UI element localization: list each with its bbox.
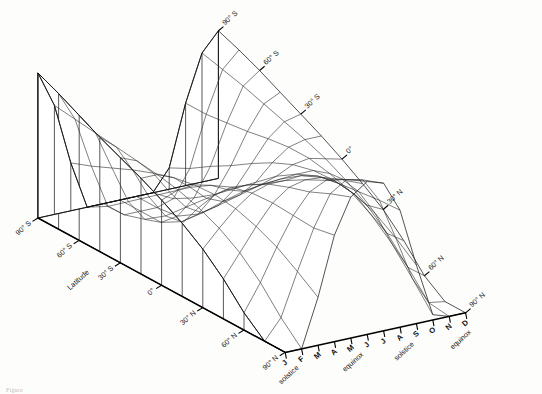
tick-label-month: N bbox=[444, 322, 454, 332]
tick-latitude bbox=[33, 218, 39, 221]
tick-label-month: J bbox=[280, 358, 289, 368]
axis-title-latitude: Latitude bbox=[65, 268, 91, 292]
tick-latitude-top bbox=[342, 155, 347, 159]
tick-label-latitude-top: 60° N bbox=[426, 253, 445, 272]
tick-month bbox=[302, 349, 303, 355]
figure-root: 90° S60° S30° S0°30° N60° N90° N90° S60°… bbox=[0, 0, 542, 394]
annotation-solstice-right: solstice bbox=[392, 340, 416, 363]
tick-latitude bbox=[156, 285, 162, 288]
annotation-equinox-front: equinox bbox=[340, 350, 365, 374]
tick-month bbox=[351, 338, 352, 344]
tick-label-latitude: 60° S bbox=[55, 241, 74, 260]
tick-label-latitude: 0° bbox=[145, 286, 156, 297]
tick-month bbox=[433, 320, 434, 326]
surface-plot: 90° S60° S30° S0°30° N60° N90° N90° S60°… bbox=[0, 0, 542, 394]
tick-label-latitude-top: 30° S bbox=[303, 92, 322, 111]
annotation-equinox-right: equinox bbox=[448, 327, 473, 351]
tick-month bbox=[466, 313, 467, 319]
tick-month bbox=[449, 316, 450, 322]
tick-latitude-top bbox=[260, 66, 265, 70]
tick-latitude bbox=[280, 352, 286, 355]
tick-month bbox=[400, 327, 401, 333]
tick-latitude-top bbox=[218, 27, 223, 31]
tick-label-latitude: 30° N bbox=[178, 308, 197, 327]
tick-label-latitude-top: 60° S bbox=[261, 48, 280, 67]
tick-month bbox=[384, 331, 385, 337]
tick-label-month: A bbox=[394, 332, 404, 343]
tick-latitude bbox=[197, 308, 203, 311]
tick-latitude-top bbox=[301, 110, 306, 114]
tick-month bbox=[334, 342, 335, 348]
tick-label-month: J bbox=[362, 340, 371, 350]
tick-label-month: S bbox=[411, 329, 421, 339]
tick-latitude-top bbox=[466, 309, 471, 313]
figure-caption: Figure bbox=[6, 387, 23, 393]
tick-label-latitude: 30° S bbox=[96, 263, 115, 282]
tick-label-latitude-top: 0° bbox=[344, 144, 355, 155]
tick-label-month: M bbox=[345, 343, 356, 354]
tick-latitude bbox=[115, 263, 121, 266]
tick-latitude-top bbox=[424, 272, 429, 276]
annotation-solstice-front: solstice bbox=[277, 363, 301, 386]
tick-month bbox=[367, 334, 368, 340]
tick-label-month: O bbox=[427, 325, 437, 336]
axis-month-right bbox=[285, 313, 465, 353]
tick-month bbox=[318, 345, 319, 351]
tick-label-month: A bbox=[329, 346, 339, 357]
tick-label-month: J bbox=[379, 336, 388, 346]
tick-label-latitude-top: 90° S bbox=[220, 8, 239, 27]
tick-label-latitude: 60° N bbox=[219, 331, 238, 350]
tick-label-month: M bbox=[312, 350, 323, 361]
tick-label-month: D bbox=[460, 318, 470, 329]
tick-label-latitude-top: 90° N bbox=[467, 290, 486, 309]
tick-label-latitude: 90° S bbox=[14, 219, 33, 238]
tick-latitude bbox=[74, 240, 80, 243]
tick-month bbox=[285, 352, 286, 358]
tick-label-month: F bbox=[296, 354, 306, 364]
tick-latitude bbox=[239, 330, 245, 333]
tick-month bbox=[416, 324, 417, 330]
tick-label-latitude: 90° N bbox=[261, 353, 280, 372]
